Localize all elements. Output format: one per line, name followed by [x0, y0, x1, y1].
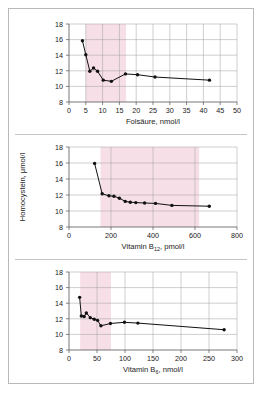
x-tick-label: 300: [231, 354, 243, 363]
y-tick-label: 12: [55, 67, 63, 76]
data-point-marker: [93, 162, 96, 165]
y-tick-label: 8: [59, 98, 63, 107]
y-tick-label: 18: [55, 143, 63, 152]
y-tick-label: 8: [59, 346, 63, 355]
x-axis-title: Folsäure, nmol/l: [126, 117, 180, 126]
data-point-marker: [154, 202, 157, 205]
data-point-marker: [84, 53, 87, 56]
x-tick-label: 400: [147, 231, 159, 240]
chart-panel-vitamin-b12: 810121416180200400600800Vitamin B12, pmo…: [9, 135, 253, 259]
x-tick-label: 200: [175, 354, 187, 363]
figure-frame: 8101214161805101520253035404550Folsäure,…: [8, 8, 254, 384]
reference-band: [80, 272, 111, 350]
x-tick-label: 30: [166, 106, 174, 115]
data-point-marker: [124, 72, 127, 75]
y-tick-label: 14: [55, 299, 63, 308]
plot-area-vitamin-b12: 810121416180200400600800Vitamin B12, pmo…: [9, 135, 253, 259]
data-point-marker: [100, 192, 103, 195]
y-tick-label: 10: [55, 330, 63, 339]
data-point-marker: [92, 66, 95, 69]
x-axis-title: Vitamin B12, pmol/l: [122, 242, 185, 252]
data-point-marker: [170, 204, 173, 207]
data-point-marker: [78, 296, 81, 299]
data-point-marker: [81, 39, 84, 42]
data-point-marker: [82, 315, 85, 318]
x-tick-label: 100: [119, 354, 131, 363]
data-point-marker: [136, 73, 139, 76]
x-tick-label: 0: [67, 231, 71, 240]
data-point-marker: [107, 194, 110, 197]
x-tick-label: 20: [132, 106, 140, 115]
data-point-marker: [109, 322, 112, 325]
chart-svg-folsaeure: 8101214161805101520253035404550Folsäure,…: [9, 12, 253, 134]
chart-panel-vitamin-b6: 81012141618050100150200250300Vitamin B6,…: [9, 260, 253, 382]
x-tick-label: 25: [149, 106, 157, 115]
y-tick-label: 16: [55, 283, 63, 292]
x-axis-title: Vitamin B6, nmol/l: [123, 365, 183, 375]
data-point-marker: [96, 319, 99, 322]
reference-band: [86, 24, 126, 102]
y-tick-label: 10: [55, 82, 63, 91]
x-tick-label: 50: [93, 354, 101, 363]
data-point-marker: [208, 78, 211, 81]
y-tick-label: 18: [55, 268, 63, 277]
data-point-marker: [89, 316, 92, 319]
chart-panel-folsaeure: 8101214161805101520253035404550Folsäure,…: [9, 12, 253, 134]
x-tick-label: 0: [67, 354, 71, 363]
data-point-marker: [136, 321, 139, 324]
data-point-marker: [118, 197, 121, 200]
data-point-marker: [96, 69, 99, 72]
x-tick-label: 50: [233, 106, 241, 115]
plot-area-folsaeure: 8101214161805101520253035404550Folsäure,…: [9, 12, 253, 134]
data-point-marker: [99, 324, 102, 327]
y-tick-label: 14: [55, 175, 63, 184]
y-tick-label: 12: [55, 191, 63, 200]
x-tick-label: 15: [115, 106, 123, 115]
y-tick-label: 18: [55, 20, 63, 29]
x-tick-label: 150: [147, 354, 159, 363]
data-point-marker: [123, 321, 126, 324]
x-tick-label: 600: [189, 231, 201, 240]
y-tick-label: 16: [55, 159, 63, 168]
y-tick-label: 10: [55, 207, 63, 216]
plot-area-vitamin-b6: 81012141618050100150200250300Vitamin B6,…: [9, 260, 253, 382]
x-tick-label: 10: [99, 106, 107, 115]
data-point-marker: [134, 201, 137, 204]
x-tick-label: 250: [203, 354, 215, 363]
x-tick-label: 200: [105, 231, 117, 240]
data-point-marker: [110, 80, 113, 83]
y-tick-label: 14: [55, 51, 63, 60]
x-tick-label: 45: [216, 106, 224, 115]
reference-band: [101, 147, 200, 227]
data-point-marker: [85, 311, 88, 314]
data-point-marker: [102, 78, 105, 81]
x-tick-label: 35: [183, 106, 191, 115]
y-tick-label: 12: [55, 315, 63, 324]
data-point-marker: [208, 205, 211, 208]
y-axis-title: Homocystein, μmol/l: [18, 152, 27, 221]
data-point-marker: [88, 69, 91, 72]
data-point-marker: [222, 328, 225, 331]
y-tick-label: 8: [59, 223, 63, 232]
x-tick-label: 800: [231, 231, 243, 240]
y-tick-label: 16: [55, 35, 63, 44]
data-point-marker: [153, 75, 156, 78]
x-tick-label: 0: [67, 106, 71, 115]
chart-svg-vitamin-b12: 810121416180200400600800Vitamin B12, pmo…: [9, 135, 253, 259]
data-point-marker: [93, 317, 96, 320]
data-point-marker: [124, 200, 127, 203]
data-point-marker: [112, 195, 115, 198]
chart-svg-vitamin-b6: 81012141618050100150200250300Vitamin B6,…: [9, 260, 253, 382]
x-tick-label: 5: [84, 106, 88, 115]
data-point-marker: [129, 201, 132, 204]
data-point-marker: [143, 201, 146, 204]
x-tick-label: 40: [199, 106, 207, 115]
